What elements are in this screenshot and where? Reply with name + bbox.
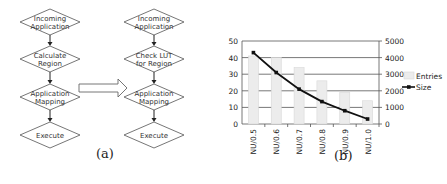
arrow-down-icon [48,80,53,84]
left-axis-tick: 10 [228,103,238,112]
caption-b: (b) [334,148,352,163]
step-label: for Region [136,60,172,68]
right-axis-tick: 0 [385,120,390,129]
size-marker [252,51,256,55]
entries-bar [340,92,350,124]
size-line [253,53,367,119]
step-label: Execute [140,132,168,140]
step-label: Check LUT [136,52,173,60]
step-label: Region [38,60,62,68]
left-axis-tick: 30 [228,70,238,79]
legend-size-label: Size [416,83,432,92]
step-label: Execute [36,132,64,140]
x-axis-category-label: NU/0.5 [249,129,258,155]
right-axis-tick: 4000 [385,54,404,63]
size-marker [366,117,370,121]
entries-bar [248,56,258,124]
flowchart-panel-a: IncomingApplicationCalculateRegionApplic… [0,0,215,184]
step-label: Incoming [138,15,170,23]
legend-line-swatch [407,85,411,89]
size-marker [274,71,278,75]
size-marker [297,87,301,91]
left-axis-tick: 20 [228,87,238,96]
size-marker [320,100,324,104]
entries-bar [271,58,281,124]
right-axis-tick: 2000 [385,87,404,96]
legend-entries-label: Entries [416,72,442,81]
right-flow-step-4: Execute [124,122,184,148]
step-label: Application [134,23,173,31]
left-flow-step-2: CalculateRegion [20,46,80,72]
step-label: Application [30,90,69,98]
right-axis-tick: 5000 [385,37,404,46]
left-flow-step-1: IncomingApplication [20,9,80,35]
x-axis-category-label: NU/0.6 [272,129,281,155]
chart-panel-b: 01020304050010002000300040005000NU/0.5NU… [215,0,447,184]
chart-legend: EntriesSize [402,72,442,92]
caption-a: (a) [96,146,114,161]
right-flow-step-3: ApplicationMapping [124,84,184,110]
left-flow-step-4: Execute [20,122,80,148]
left-axis-tick: 0 [233,120,238,129]
x-axis-category-label: NU/0.7 [295,129,304,155]
left-axis-tick: 50 [228,37,238,46]
left-axis-tick: 40 [228,54,238,63]
arrow-down-icon [152,80,157,84]
arrow-down-icon [152,42,157,46]
step-label: Incoming [34,15,66,23]
step-label: Mapping [139,98,169,106]
arrow-down-icon [152,118,157,122]
step-label: Calculate [34,52,67,60]
x-axis-category-label: NU/0.8 [318,129,327,155]
right-axis-tick: 1000 [385,103,404,112]
entries-bar [294,68,304,124]
x-axis-category-label: NU/1.0 [364,129,373,155]
left-flow-step-3: ApplicationMapping [20,84,80,110]
step-label: Mapping [35,98,65,106]
size-marker [343,109,347,113]
step-label: Application [134,90,173,98]
legend-bar-swatch [404,72,414,79]
right-axis-tick: 3000 [385,70,404,79]
arrow-down-icon [48,42,53,46]
right-flow-step-2: Check LUTfor Region [124,46,184,72]
right-flow-step-1: IncomingApplication [124,9,184,35]
step-label: Application [30,23,69,31]
arrow-down-icon [48,118,53,122]
transform-arrow-icon [79,79,127,97]
entries-size-chart: 01020304050010002000300040005000NU/0.5NU… [215,0,447,184]
